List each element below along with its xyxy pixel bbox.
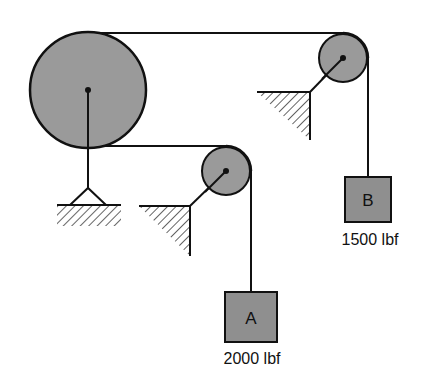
block-a-label: A bbox=[245, 309, 257, 328]
pulley-diagram: B 1500 lbf A 2000 lbf bbox=[0, 0, 424, 381]
wall-hatch bbox=[139, 206, 190, 256]
block-b-weight: 1500 lbf bbox=[342, 231, 399, 248]
axle-dot bbox=[340, 55, 346, 61]
block-a-weight: 2000 lbf bbox=[224, 350, 281, 367]
axle-dot bbox=[223, 168, 229, 174]
block-b: B 1500 lbf bbox=[342, 177, 399, 248]
axle-dot bbox=[85, 87, 91, 93]
ground-hatch bbox=[57, 206, 121, 226]
block-b-label: B bbox=[362, 191, 373, 210]
wall-hatch bbox=[257, 92, 310, 140]
large-pulley bbox=[30, 32, 146, 148]
pulley-upper-right bbox=[319, 33, 368, 82]
pulley-lower-middle bbox=[202, 146, 251, 195]
block-a: A 2000 lbf bbox=[224, 292, 281, 367]
